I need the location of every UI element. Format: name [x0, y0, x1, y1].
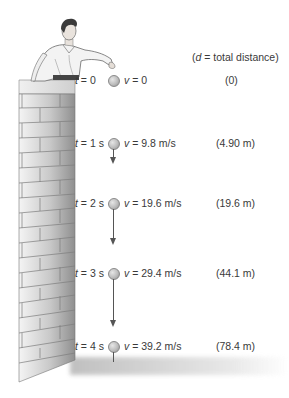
row-time-label: t = 3 s — [75, 267, 104, 279]
row-velocity-label: v = 19.6 m/s — [124, 197, 181, 209]
ball-icon — [108, 138, 120, 150]
row-time-label: t = 2 s — [75, 197, 104, 209]
row-velocity-label: v = 39.2 m/s — [124, 340, 181, 352]
legend-total-distance: (d = total distance) — [192, 51, 279, 63]
row-distance-label: (4.90 m) — [216, 137, 255, 149]
row-velocity-label: v = 0 — [124, 74, 147, 86]
ball-icon — [108, 341, 120, 353]
ball-icon — [108, 198, 120, 210]
row-time-label: t = 1 s — [75, 137, 104, 149]
row-distance-label: (0) — [225, 74, 238, 86]
velocity-arrow-head-icon — [110, 157, 116, 164]
velocity-arrow-head-icon — [110, 238, 116, 245]
row-time-label: t = 4 s — [75, 340, 104, 352]
row-distance-label: (78.4 m) — [216, 340, 255, 352]
velocity-arrow-shaft — [113, 352, 114, 362]
row-distance-label: (19.6 m) — [216, 197, 255, 209]
row-velocity-label: v = 29.4 m/s — [124, 267, 181, 279]
brick-wall — [0, 70, 80, 390]
row-time-label: t = 0 — [75, 74, 96, 86]
velocity-arrow-shaft — [113, 279, 114, 321]
ground-shadow — [70, 357, 289, 375]
velocity-arrow-shaft — [113, 209, 114, 239]
legend-rest: = total distance) — [201, 51, 278, 63]
ball-icon — [108, 268, 120, 280]
velocity-arrow-head-icon — [110, 320, 116, 327]
row-velocity-label: v = 9.8 m/s — [124, 137, 176, 149]
ball-icon — [108, 75, 120, 87]
row-distance-label: (44.1 m) — [216, 267, 255, 279]
